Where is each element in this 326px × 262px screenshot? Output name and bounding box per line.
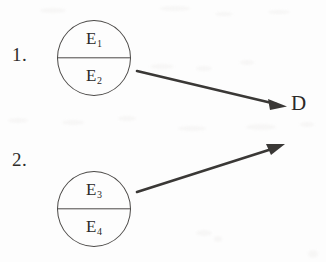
arrow-1-head	[268, 99, 287, 110]
target-label-d: D	[291, 93, 306, 114]
diagram-canvas: 1. E1 E2 2. E3 E4 D	[0, 0, 326, 262]
arrow-1	[137, 71, 287, 110]
arrow-layer	[0, 0, 326, 262]
arrow-2-head	[266, 144, 285, 155]
arrow-2	[137, 144, 285, 192]
arrow-2-shaft	[137, 148, 275, 192]
arrow-1-shaft	[137, 71, 276, 104]
